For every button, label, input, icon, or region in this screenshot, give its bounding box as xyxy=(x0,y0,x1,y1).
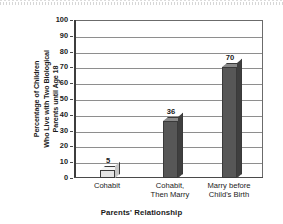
x-axis-category-line: Child's Birth xyxy=(209,190,249,199)
bar-value-label: 70 xyxy=(215,54,245,62)
y-axis-tick-label: 80 xyxy=(48,48,68,56)
bar-value-label: 5 xyxy=(93,157,123,165)
y-axis-tick-mark xyxy=(70,52,73,53)
y-axis-tick-mark xyxy=(70,67,73,68)
x-axis-category-label: Cohabit,Then Marry xyxy=(137,181,203,200)
x-axis-category-label: Marry beforeChild's Birth xyxy=(196,181,262,200)
y-axis-tick-mark xyxy=(70,83,73,84)
y-axis-tick-mark xyxy=(70,178,73,179)
bar[interactable] xyxy=(163,121,178,178)
y-axis-tick-mark xyxy=(70,131,73,132)
y-axis-tick-mark xyxy=(70,146,73,147)
y-axis-line xyxy=(74,20,76,178)
y-axis-tick-label: 50 xyxy=(48,95,68,103)
bar[interactable] xyxy=(100,170,115,178)
bar-side-face xyxy=(237,59,242,178)
bar-front-face xyxy=(163,121,178,178)
x-axis-category-line: Then Marry xyxy=(151,190,190,199)
y-axis-tick-mark xyxy=(70,115,73,116)
y-axis-tick-mark xyxy=(70,20,73,21)
y-axis-tick-label: 100 xyxy=(48,16,68,24)
bar-chart: Percentage of Children Who Live with Two… xyxy=(0,0,283,224)
y-axis-tick-label: 70 xyxy=(48,63,68,71)
y-axis-tick-label: 60 xyxy=(48,79,68,87)
y-axis-tick-label: 10 xyxy=(48,158,68,166)
y-axis-tick-mark xyxy=(70,99,73,100)
bar-side-face xyxy=(178,113,183,178)
x-axis-title: Parents' Relationship xyxy=(0,208,283,217)
bar-front-face xyxy=(100,170,115,178)
x-axis-category-line: Marry before xyxy=(207,181,250,190)
y-axis-tick-label: 30 xyxy=(48,127,68,135)
bar[interactable] xyxy=(222,67,237,178)
x-axis-category-label: Cohabit xyxy=(74,181,140,190)
y-axis-title-line-1: Percentage of Children xyxy=(32,61,41,137)
bar-front-face xyxy=(222,67,237,178)
x-axis-category-line: Cohabit, xyxy=(156,181,184,190)
y-axis-tick-mark xyxy=(70,36,73,37)
y-axis-tick-label: 20 xyxy=(48,142,68,150)
bar-value-label: 36 xyxy=(156,108,186,116)
y-axis-tick-label: 40 xyxy=(48,111,68,119)
y-axis-tick-label: 0 xyxy=(48,174,68,182)
x-axis-category-line: Cohabit xyxy=(94,181,120,190)
y-axis-tick-mark xyxy=(70,162,73,163)
y-axis-tick-label: 90 xyxy=(48,32,68,40)
gridline xyxy=(75,37,262,38)
